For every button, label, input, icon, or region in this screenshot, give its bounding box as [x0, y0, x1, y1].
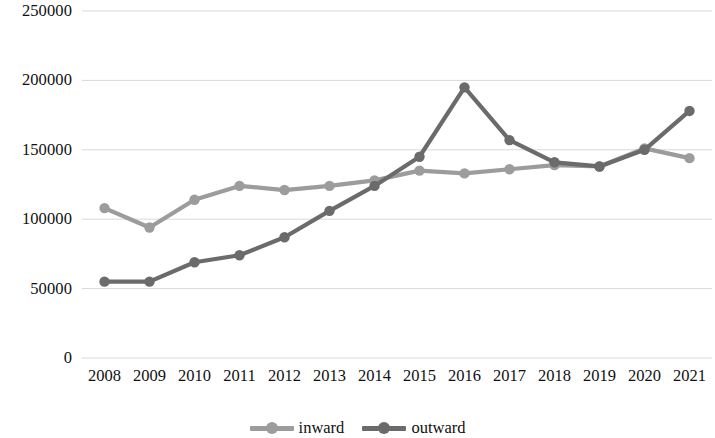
series-line [105, 87, 690, 281]
data-point [504, 135, 514, 145]
data-point [594, 161, 604, 171]
x-axis-tick-label: 2020 [628, 368, 661, 385]
data-point [189, 257, 199, 267]
line-chart: 050000100000150000200000250000 200820092… [0, 0, 715, 438]
gridlines [82, 11, 712, 358]
y-axis-tick-label: 100000 [0, 211, 72, 228]
y-axis-tick-label: 0 [0, 350, 72, 367]
y-axis-tick-label: 200000 [0, 72, 72, 89]
y-axis-tick-label: 50000 [0, 281, 72, 298]
legend-dot [378, 422, 390, 434]
data-point [279, 232, 289, 242]
data-point [324, 206, 334, 216]
x-axis-tick-label: 2011 [223, 368, 255, 385]
y-axis-tick-label: 250000 [0, 3, 72, 20]
data-point [369, 181, 379, 191]
data-point [99, 276, 109, 286]
legend-label: outward [411, 420, 465, 437]
data-point [504, 164, 514, 174]
x-axis: 2008200920102011201220132014201520162017… [0, 368, 715, 392]
chart-legend: inwardoutward [0, 418, 715, 438]
x-axis-tick-label: 2008 [88, 368, 121, 385]
x-axis-tick-label: 2017 [493, 368, 526, 385]
data-point [549, 157, 559, 167]
x-axis-tick-label: 2015 [403, 368, 436, 385]
legend-item-inward[interactable]: inward [250, 420, 345, 437]
series-line [105, 148, 690, 227]
data-point [234, 181, 244, 191]
legend-dot [266, 422, 278, 434]
series-layer [99, 82, 694, 287]
series-outward [99, 82, 694, 287]
data-point [459, 82, 469, 92]
x-axis-tick-label: 2021 [673, 368, 706, 385]
data-point [414, 165, 424, 175]
x-axis-tick-label: 2009 [133, 368, 166, 385]
data-point [144, 222, 154, 232]
x-axis-tick-label: 2014 [358, 368, 391, 385]
x-axis-tick-label: 2019 [583, 368, 616, 385]
data-point [279, 185, 289, 195]
x-axis-tick-label: 2012 [268, 368, 301, 385]
legend-item-outward[interactable]: outward [362, 420, 465, 437]
x-axis-tick-label: 2010 [178, 368, 211, 385]
data-point [414, 152, 424, 162]
data-point [639, 145, 649, 155]
x-axis-tick-label: 2016 [448, 368, 481, 385]
data-point [189, 195, 199, 205]
legend-label: inward [299, 420, 345, 437]
data-point [324, 181, 334, 191]
data-point [684, 106, 694, 116]
data-point [144, 276, 154, 286]
data-point [99, 203, 109, 213]
legend-marker-icon [362, 422, 406, 434]
x-axis-tick-label: 2013 [313, 368, 346, 385]
data-point [234, 250, 244, 260]
data-point [684, 153, 694, 163]
x-axis-tick-label: 2018 [538, 368, 571, 385]
legend-marker-icon [250, 422, 294, 434]
y-axis-tick-label: 150000 [0, 142, 72, 159]
data-point [459, 168, 469, 178]
